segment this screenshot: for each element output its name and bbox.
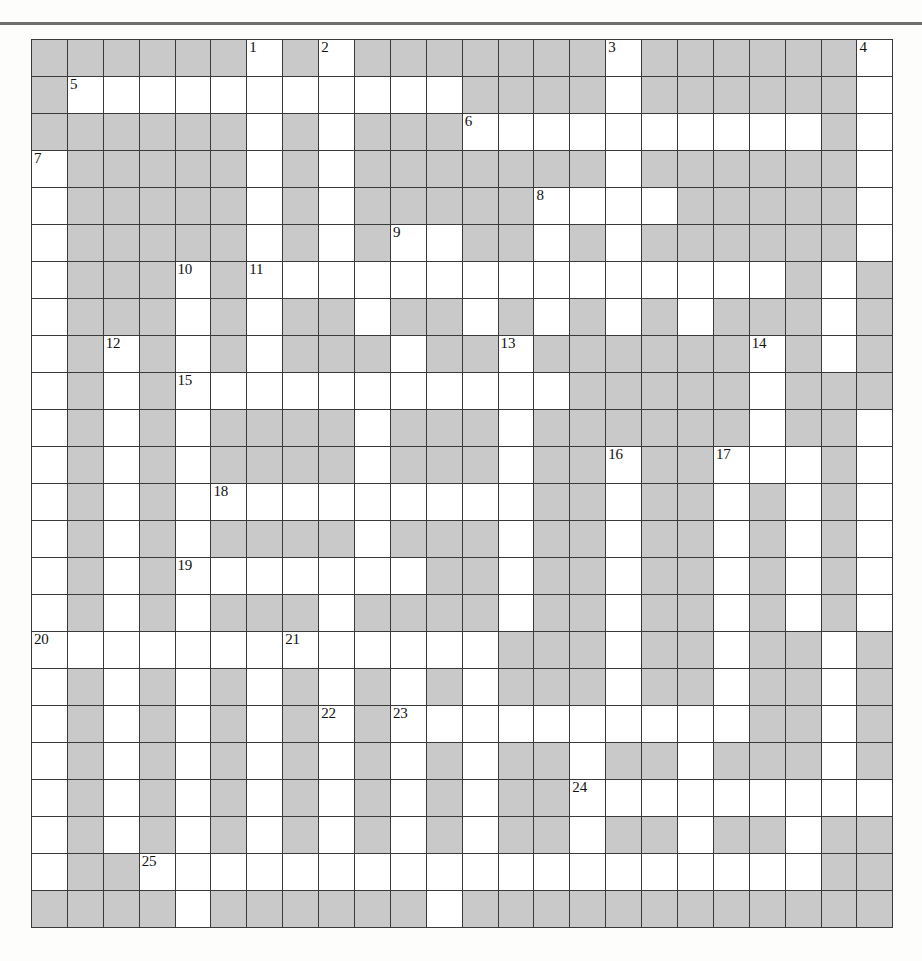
open-cell[interactable] xyxy=(355,484,391,521)
open-cell-numbered-1[interactable]: 1 xyxy=(247,40,283,77)
open-cell[interactable] xyxy=(390,743,426,780)
open-cell[interactable] xyxy=(606,77,642,114)
open-cell[interactable] xyxy=(606,854,642,891)
open-cell[interactable] xyxy=(32,743,68,780)
open-cell[interactable] xyxy=(283,558,319,595)
open-cell[interactable] xyxy=(534,854,570,891)
open-cell[interactable] xyxy=(247,225,283,262)
open-cell[interactable] xyxy=(426,854,462,891)
open-cell[interactable] xyxy=(32,706,68,743)
open-cell[interactable] xyxy=(103,817,139,854)
open-cell-numbered-19[interactable]: 19 xyxy=(175,558,211,595)
open-cell[interactable] xyxy=(247,336,283,373)
open-cell[interactable] xyxy=(606,595,642,632)
open-cell-numbered-22[interactable]: 22 xyxy=(319,706,355,743)
open-cell[interactable] xyxy=(319,373,355,410)
open-cell[interactable] xyxy=(319,817,355,854)
open-cell[interactable] xyxy=(821,743,857,780)
open-cell[interactable] xyxy=(283,262,319,299)
open-cell[interactable] xyxy=(32,854,68,891)
open-cell[interactable] xyxy=(498,484,534,521)
open-cell[interactable] xyxy=(606,299,642,336)
open-cell[interactable] xyxy=(785,484,821,521)
open-cell[interactable] xyxy=(175,336,211,373)
open-cell[interactable] xyxy=(713,854,749,891)
open-cell[interactable] xyxy=(498,410,534,447)
open-cell[interactable] xyxy=(175,77,211,114)
open-cell[interactable] xyxy=(857,595,893,632)
open-cell[interactable] xyxy=(785,854,821,891)
open-cell[interactable] xyxy=(678,706,714,743)
open-cell[interactable] xyxy=(319,595,355,632)
open-cell[interactable] xyxy=(247,558,283,595)
open-cell[interactable] xyxy=(355,77,391,114)
open-cell[interactable] xyxy=(462,484,498,521)
open-cell[interactable] xyxy=(103,373,139,410)
open-cell[interactable] xyxy=(319,632,355,669)
open-cell[interactable] xyxy=(390,262,426,299)
open-cell[interactable] xyxy=(32,447,68,484)
open-cell[interactable] xyxy=(606,262,642,299)
open-cell[interactable] xyxy=(283,77,319,114)
open-cell[interactable] xyxy=(785,114,821,151)
open-cell[interactable] xyxy=(713,262,749,299)
open-cell[interactable] xyxy=(749,447,785,484)
open-cell[interactable] xyxy=(211,854,247,891)
open-cell[interactable] xyxy=(462,854,498,891)
open-cell[interactable] xyxy=(319,780,355,817)
open-cell[interactable] xyxy=(32,262,68,299)
open-cell[interactable] xyxy=(426,632,462,669)
open-cell[interactable] xyxy=(319,188,355,225)
open-cell[interactable] xyxy=(175,780,211,817)
open-cell[interactable] xyxy=(247,114,283,151)
open-cell[interactable] xyxy=(32,595,68,632)
open-cell[interactable] xyxy=(103,595,139,632)
open-cell[interactable] xyxy=(390,669,426,706)
open-cell[interactable] xyxy=(139,77,175,114)
open-cell[interactable] xyxy=(355,447,391,484)
open-cell[interactable] xyxy=(319,151,355,188)
open-cell[interactable] xyxy=(606,632,642,669)
open-cell[interactable] xyxy=(498,114,534,151)
open-cell[interactable] xyxy=(678,262,714,299)
open-cell[interactable] xyxy=(426,225,462,262)
open-cell[interactable] xyxy=(319,854,355,891)
open-cell[interactable] xyxy=(426,373,462,410)
open-cell[interactable] xyxy=(462,632,498,669)
open-cell[interactable] xyxy=(534,706,570,743)
open-cell[interactable] xyxy=(247,817,283,854)
open-cell[interactable] xyxy=(713,706,749,743)
open-cell[interactable] xyxy=(570,114,606,151)
open-cell[interactable] xyxy=(247,706,283,743)
open-cell[interactable] xyxy=(642,262,678,299)
open-cell[interactable] xyxy=(642,780,678,817)
open-cell[interactable] xyxy=(534,373,570,410)
open-cell[interactable] xyxy=(606,151,642,188)
open-cell[interactable] xyxy=(355,632,391,669)
open-cell[interactable] xyxy=(857,77,893,114)
open-cell[interactable] xyxy=(857,151,893,188)
open-cell[interactable] xyxy=(175,706,211,743)
open-cell[interactable] xyxy=(32,521,68,558)
open-cell[interactable] xyxy=(606,780,642,817)
open-cell[interactable] xyxy=(606,521,642,558)
open-cell[interactable] xyxy=(32,817,68,854)
open-cell[interactable] xyxy=(32,188,68,225)
open-cell[interactable] xyxy=(355,262,391,299)
open-cell[interactable] xyxy=(462,373,498,410)
open-cell[interactable] xyxy=(857,114,893,151)
open-cell[interactable] xyxy=(247,151,283,188)
open-cell[interactable] xyxy=(390,817,426,854)
open-cell[interactable] xyxy=(498,595,534,632)
open-cell-numbered-18[interactable]: 18 xyxy=(211,484,247,521)
open-cell[interactable] xyxy=(606,558,642,595)
open-cell[interactable] xyxy=(175,595,211,632)
open-cell[interactable] xyxy=(175,484,211,521)
open-cell[interactable] xyxy=(785,817,821,854)
open-cell[interactable] xyxy=(749,854,785,891)
open-cell[interactable] xyxy=(319,558,355,595)
open-cell[interactable] xyxy=(32,336,68,373)
open-cell[interactable] xyxy=(857,780,893,817)
open-cell[interactable] xyxy=(103,410,139,447)
open-cell[interactable] xyxy=(821,299,857,336)
